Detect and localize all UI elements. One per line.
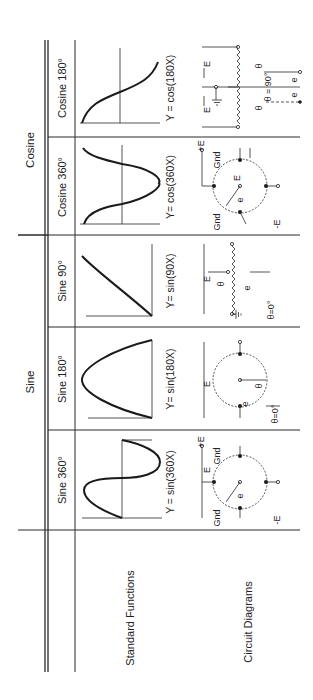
- row-header-standard-functions: Standard Functions: [124, 570, 136, 666]
- column-label-sine-180: Sine 180°: [56, 355, 68, 403]
- svg-text:E: E: [202, 381, 212, 387]
- group-header-sine: Sine: [24, 370, 36, 393]
- svg-text:e: e: [242, 285, 252, 290]
- svg-text:θ = 90°: θ = 90°: [263, 72, 273, 101]
- svg-text:θ=0°: θ=0°: [270, 404, 280, 423]
- column-label-sine-360: Sine 360°: [56, 456, 68, 504]
- svg-text:+E: +E: [196, 140, 206, 151]
- svg-text:θ: θ: [254, 105, 264, 110]
- svg-text:E: E: [232, 175, 242, 181]
- svg-text:e: e: [235, 493, 245, 498]
- curve-cosine-180: [80, 48, 160, 123]
- svg-text:Gnd: Gnd: [212, 151, 222, 168]
- svg-text:θ=0°: θ=0°: [266, 300, 276, 319]
- circuit-cosine-360: +E -E Gnd Gnd E e: [196, 140, 282, 230]
- curve-sine-90: [82, 244, 152, 316]
- svg-text:E: E: [202, 276, 212, 282]
- sine-cosine-potentiometer-table: Cosine Sine Cosine 180° Cosine 360° Sine…: [0, 0, 313, 700]
- equation-sine-90: Y= sin(90X): [164, 253, 176, 308]
- curve-cosine-360: [80, 145, 160, 224]
- circuit-sine-90: E θ e θ=0°: [202, 242, 276, 319]
- svg-text:E: E: [202, 467, 212, 473]
- svg-text:+E: +E: [196, 436, 206, 447]
- svg-text:θ: θ: [254, 63, 264, 68]
- column-label-cosine-360: Cosine 360°: [56, 157, 68, 217]
- curve-sine-180: [82, 340, 152, 418]
- column-label-cosine-180: Cosine 180°: [56, 58, 68, 118]
- svg-text:e: e: [235, 197, 245, 202]
- row-header-circuit-diagrams: Circuit Diagrams: [242, 581, 254, 663]
- svg-text:E: E: [202, 107, 212, 113]
- svg-text:-E: -E: [272, 516, 282, 525]
- equation-sine-360: Y = sin(360X): [164, 450, 176, 514]
- equation-cosine-180: Y = cos(180X): [164, 55, 176, 122]
- equation-sine-180: Y= sin(180X): [164, 349, 176, 410]
- svg-text:E: E: [202, 61, 212, 67]
- svg-text:e: e: [240, 401, 250, 406]
- curve-sine-360: [82, 440, 162, 518]
- svg-text:θ: θ: [216, 281, 226, 286]
- circuit-sine-360: +E -E Gnd Gnd E e: [196, 436, 282, 526]
- svg-text:e: e: [289, 92, 299, 97]
- svg-text:e: e: [289, 77, 299, 82]
- svg-text:Gnd: Gnd: [212, 509, 222, 526]
- svg-text:θ: θ: [254, 383, 264, 388]
- svg-text:Gnd: Gnd: [212, 213, 222, 230]
- equation-cosine-360: Y= cos(360X): [164, 155, 176, 219]
- column-label-sine-90: Sine 90°: [56, 260, 68, 302]
- circuit-sine-180: E θ e θ=0°: [202, 340, 280, 423]
- circuit-cosine-180: E E θ θ θ = 90° e e: [202, 45, 302, 128]
- svg-text:Gnd: Gnd: [212, 447, 222, 464]
- svg-text:-E: -E: [272, 220, 282, 229]
- group-header-cosine: Cosine: [24, 132, 36, 168]
